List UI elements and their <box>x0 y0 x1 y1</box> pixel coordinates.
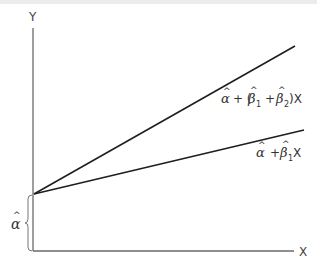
y-axis-label: Y <box>28 10 37 24</box>
alpha-symbol: α <box>221 91 230 106</box>
subscript-1: 1 <box>256 100 261 109</box>
plus-sign: + <box>265 92 275 106</box>
regression-diagram: Y X α ^ ^ α + ( ^ β 1 + ^ β 2 )X ^ α + ^… <box>0 0 317 270</box>
steeper-regression-line <box>34 46 295 194</box>
x-axis-label: X <box>299 245 307 259</box>
beta2-symbol: β <box>275 91 284 106</box>
close-paren-x: )X <box>289 92 302 106</box>
beta1-symbol: β <box>247 91 256 106</box>
steeper-line-label: ^ α + ( ^ β 1 + ^ β 2 )X <box>221 85 302 109</box>
intercept-label: α ^ <box>11 210 21 232</box>
x-variable: X <box>293 146 301 160</box>
hat-mark: ^ <box>13 210 21 220</box>
beta1-symbol: β <box>279 145 288 160</box>
plus-sign: + <box>270 146 280 160</box>
flatter-line-label: ^ α + ^ β 1 X <box>256 139 301 163</box>
intercept-brace <box>25 195 32 251</box>
alpha-symbol: α <box>256 145 265 160</box>
